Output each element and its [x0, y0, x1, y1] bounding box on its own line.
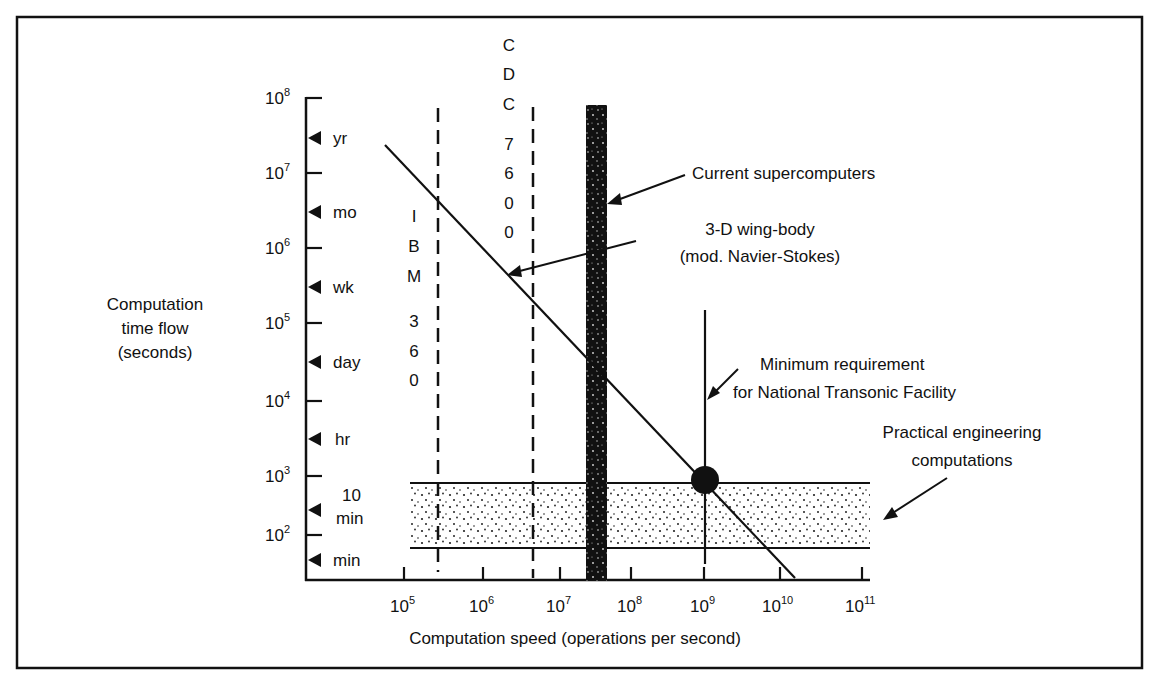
y-axis-tick-labels: 108 107 106 105 104 103 102	[265, 86, 290, 545]
marker-min: min	[333, 551, 360, 570]
ntf-point	[691, 466, 719, 494]
y-tick-1e7: 107	[265, 161, 290, 183]
arrow-icon	[883, 507, 898, 520]
svg-text:3: 3	[409, 312, 418, 331]
x-axis-title: Computation speed (operations per second…	[409, 629, 741, 648]
triangle-marker-icon	[308, 355, 321, 369]
triangle-marker-icon	[308, 205, 321, 219]
svg-text:C: C	[503, 36, 515, 55]
y-axis-title-line1: Computation	[107, 295, 203, 314]
y-tick-1e5: 105	[265, 311, 290, 333]
triangle-marker-icon	[308, 280, 321, 294]
y-axis-title-line2: time flow	[121, 319, 189, 338]
svg-text:0: 0	[409, 371, 418, 390]
x-tick-1e7: 107	[546, 594, 571, 616]
svg-text:Minimum requirement: Minimum requirement	[760, 355, 925, 374]
svg-text:6: 6	[504, 164, 513, 183]
arrow-icon	[607, 193, 622, 205]
cdc-7600-label: C D C 7 6 0 0	[503, 36, 515, 242]
x-tick-1e5: 105	[390, 594, 415, 616]
svg-text:Current supercomputers: Current supercomputers	[692, 164, 875, 183]
svg-text:0: 0	[504, 223, 513, 242]
x-axis-tick-labels: 105 106 107 108 109 1010 1011	[390, 594, 875, 616]
marker-wk: wk	[332, 278, 354, 297]
svg-text:D: D	[503, 65, 515, 84]
x-tick-1e8: 108	[617, 594, 642, 616]
y-axis-title-line3: (seconds)	[118, 343, 193, 362]
marker-mo: mo	[333, 203, 357, 222]
x-tick-1e11: 1011	[845, 594, 875, 616]
svg-text:7: 7	[504, 135, 513, 154]
marker-10min-number: 10	[342, 486, 361, 505]
svg-text:C: C	[503, 95, 515, 114]
x-tick-1e10: 1010	[762, 594, 793, 616]
triangle-marker-icon	[308, 432, 321, 446]
x-axis-ticks	[404, 567, 862, 580]
y-tick-1e8: 108	[265, 86, 290, 108]
annotation-ntf: Minimum requirement for National Transon…	[707, 355, 956, 402]
svg-text:(mod. Navier-Stokes): (mod. Navier-Stokes)	[680, 247, 841, 266]
svg-text:0: 0	[504, 194, 513, 213]
y-axis-ticks	[306, 98, 322, 535]
marker-hr: hr	[335, 430, 350, 449]
svg-text:M: M	[407, 267, 421, 286]
time-markers: yr mo wk day hr 10 min min	[308, 129, 363, 570]
marker-day: day	[333, 353, 361, 372]
x-tick-1e9: 109	[690, 594, 715, 616]
svg-text:Practical engineering: Practical engineering	[883, 423, 1042, 442]
annotation-supercomputers: Current supercomputers	[607, 164, 875, 205]
svg-text:I: I	[412, 207, 417, 226]
svg-text:6: 6	[409, 342, 418, 361]
svg-text:3-D wing-body: 3-D wing-body	[705, 220, 815, 239]
arrow-icon	[507, 265, 522, 277]
svg-text:for National Transonic Facilit: for National Transonic Facility	[733, 383, 956, 402]
ibm-360-label: I B M 3 6 0	[407, 207, 421, 390]
marker-10min-unit: min	[336, 509, 363, 528]
supercomputers-bar	[586, 105, 607, 581]
x-tick-1e6: 106	[469, 594, 494, 616]
triangle-marker-icon	[308, 131, 321, 145]
y-tick-1e2: 102	[265, 523, 290, 545]
svg-text:B: B	[408, 237, 419, 256]
annotation-wing-body: 3-D wing-body (mod. Navier-Stokes)	[507, 220, 840, 277]
figure: Computation time flow (seconds) 108 107 …	[0, 0, 1152, 681]
y-tick-1e6: 106	[265, 236, 290, 258]
y-tick-1e3: 103	[265, 464, 290, 486]
practical-engineering-band	[410, 483, 870, 548]
y-axis-title: Computation time flow (seconds)	[107, 295, 203, 362]
triangle-marker-icon	[308, 553, 321, 567]
annotation-practical: Practical engineering computations	[883, 423, 1042, 520]
y-tick-1e4: 104	[265, 389, 290, 411]
svg-text:computations: computations	[911, 451, 1012, 470]
triangle-marker-icon	[308, 503, 321, 517]
marker-yr: yr	[333, 129, 348, 148]
chart-canvas: Computation time flow (seconds) 108 107 …	[0, 0, 1152, 681]
